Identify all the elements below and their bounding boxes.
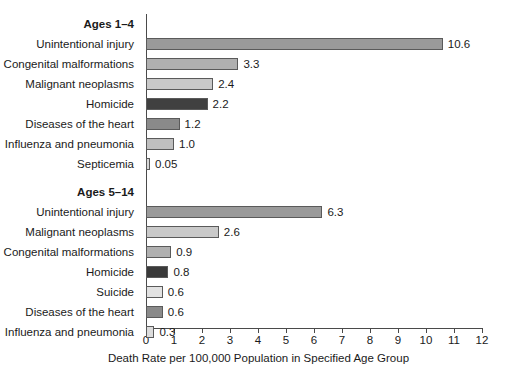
bar-row: Unintentional injury6.3 <box>0 202 517 222</box>
bar <box>146 246 171 258</box>
bar <box>146 38 443 50</box>
bar-row: Influenza and pneumonia0.3 <box>0 322 517 342</box>
group-header-label: Ages 1–4 <box>0 14 140 34</box>
bar-value-label: 6.3 <box>327 202 343 222</box>
bar <box>146 58 238 70</box>
bar <box>146 78 213 90</box>
bar-row: Malignant neoplasms2.6 <box>0 222 517 242</box>
category-label: Influenza and pneumonia <box>0 134 140 154</box>
bar-value-label: 2.2 <box>213 94 229 114</box>
bar-row: Congenital malformations0.9 <box>0 242 517 262</box>
bar-row: Suicide0.6 <box>0 282 517 302</box>
category-label: Suicide <box>0 282 140 302</box>
category-label: Homicide <box>0 262 140 282</box>
bar-row: Unintentional injury10.6 <box>0 34 517 54</box>
x-axis-title: Death Rate per 100,000 Population in Spe… <box>0 352 517 364</box>
bar-row: Diseases of the heart0.6 <box>0 302 517 322</box>
category-label: Influenza and pneumonia <box>0 322 140 342</box>
bar-row: Influenza and pneumonia1.0 <box>0 134 517 154</box>
category-label: Unintentional injury <box>0 34 140 54</box>
bar <box>146 306 163 318</box>
bar-value-label: 1.2 <box>185 114 201 134</box>
bar-value-label: 0.6 <box>168 282 184 302</box>
bar <box>146 118 180 130</box>
group-header-row: Ages 1–4 <box>0 14 517 34</box>
bar <box>146 138 174 150</box>
bar-value-label: 1.0 <box>179 134 195 154</box>
category-label: Congenital malformations <box>0 242 140 262</box>
group-header-row: Ages 5–14 <box>0 182 517 202</box>
bar-value-label: 0.8 <box>173 262 189 282</box>
bar-value-label: 0.6 <box>168 302 184 322</box>
bar-value-label: 3.3 <box>243 54 259 74</box>
bar-value-label: 0.3 <box>159 322 175 342</box>
category-label: Malignant neoplasms <box>0 74 140 94</box>
bar-value-label: 2.6 <box>224 222 240 242</box>
bar <box>146 206 322 218</box>
bar-row: Homicide0.8 <box>0 262 517 282</box>
bar <box>146 98 208 110</box>
category-label: Unintentional injury <box>0 202 140 222</box>
bar <box>146 326 154 338</box>
bar-value-label: 10.6 <box>448 34 470 54</box>
category-label: Diseases of the heart <box>0 302 140 322</box>
bar-value-label: 0.9 <box>176 242 192 262</box>
bar <box>146 266 168 278</box>
bar <box>146 226 219 238</box>
bar <box>146 286 163 298</box>
bar <box>146 158 150 170</box>
category-label: Septicemia <box>0 154 140 174</box>
category-label: Malignant neoplasms <box>0 222 140 242</box>
bar-chart-figure: 0123456789101112 Ages 1–4Unintentional i… <box>0 0 517 385</box>
bar-value-label: 0.05 <box>155 154 177 174</box>
bar-row: Congenital malformations3.3 <box>0 54 517 74</box>
bar-row: Homicide2.2 <box>0 94 517 114</box>
bar-row: Diseases of the heart1.2 <box>0 114 517 134</box>
bar-row: Septicemia0.05 <box>0 154 517 174</box>
category-label: Homicide <box>0 94 140 114</box>
bar-value-label: 2.4 <box>218 74 234 94</box>
category-label: Diseases of the heart <box>0 114 140 134</box>
bar-row: Malignant neoplasms2.4 <box>0 74 517 94</box>
category-label: Congenital malformations <box>0 54 140 74</box>
group-header-label: Ages 5–14 <box>0 182 140 202</box>
